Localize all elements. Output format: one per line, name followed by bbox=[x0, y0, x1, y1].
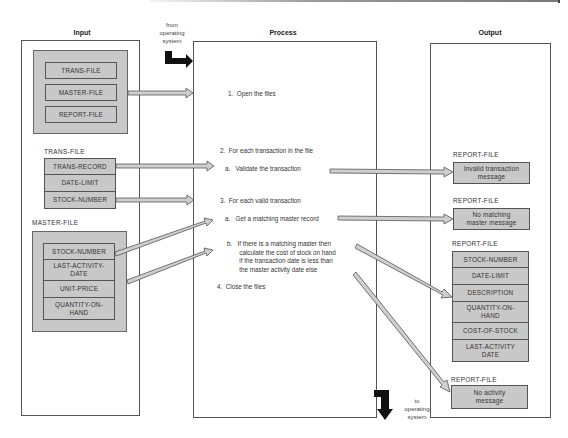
arrows-layer: .ga { fill:#cfcfcf; stroke:#555; stroke-… bbox=[0, 0, 568, 438]
open-files-arrow-icon bbox=[128, 88, 193, 98]
trans-stock-number-arrow-icon bbox=[116, 195, 194, 205]
trans-record-arrow-icon bbox=[116, 161, 214, 171]
to-os-arrow-icon bbox=[374, 390, 393, 420]
master-unit-price-arrow-icon bbox=[127, 248, 213, 284]
validate-to-report1-arrow-icon bbox=[330, 167, 453, 177]
getmaster-to-report2-arrow-icon bbox=[338, 214, 453, 224]
master-stock-number-arrow-icon bbox=[115, 218, 213, 256]
from-os-arrow-icon bbox=[165, 51, 193, 68]
